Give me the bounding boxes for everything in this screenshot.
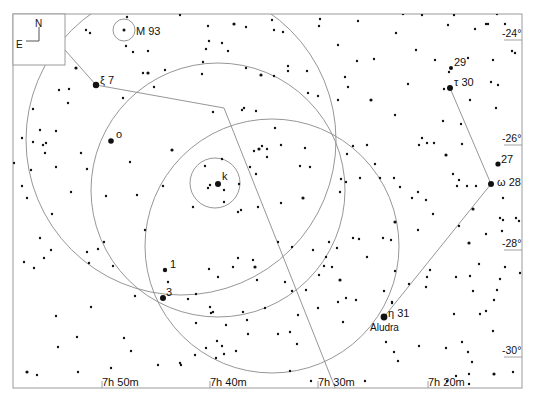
field-star [257,147,260,150]
labeled-star [163,268,167,272]
field-star [425,286,427,288]
field-star [42,144,44,146]
field-star [30,169,32,171]
field-star [194,354,196,356]
field-star [264,307,266,309]
field-star [336,247,338,249]
field-star [345,297,347,299]
field-star [399,186,401,188]
field-star [455,276,457,278]
field-star [445,347,447,349]
field-star [289,331,291,333]
field-star [305,289,307,291]
field-star [147,50,149,52]
field-star [407,83,409,85]
field-star [85,29,87,31]
field-star [256,279,258,281]
field-star [317,95,319,97]
field-star [162,185,164,187]
field-star [432,213,434,215]
field-star [309,166,311,168]
dec-tick-label: -26° [502,132,521,144]
dec-tick-label: -28° [502,237,521,249]
field-star [209,184,211,186]
field-star [518,220,520,222]
labeled-star [449,66,453,70]
field-star [208,268,210,270]
star-label: ω 28 [497,176,521,188]
field-star [221,42,223,44]
field-star [447,24,449,26]
field-star [112,265,114,267]
field-star [499,217,501,219]
field-star [444,153,447,156]
field-star [394,114,396,116]
field-star [105,195,107,197]
field-star [237,257,239,259]
field-star [179,362,181,364]
dec-tick-label: -24° [502,27,521,39]
field-star [458,225,460,227]
field-star [207,25,209,27]
field-star [237,211,239,213]
field-star [246,319,248,321]
field-star [90,306,92,308]
field-star [385,341,387,343]
field-star [273,29,275,31]
field-star [310,380,312,382]
field-star [26,197,28,199]
field-star [74,66,77,69]
field-star [492,330,494,332]
field-star [342,321,344,323]
field-star [345,181,347,183]
field-star [492,59,494,61]
field-star [502,197,504,199]
star-label: 3 [166,286,172,298]
star-label: τ 30 [454,76,474,88]
field-star [394,270,396,272]
field-star [209,306,211,308]
field-star [195,322,197,324]
field-star [519,272,521,274]
field-star [86,168,88,170]
field-star [495,107,497,109]
field-star [493,299,495,301]
field-star [366,144,368,146]
north-label: N [35,18,42,29]
field-star [192,206,194,208]
field-star [146,71,149,74]
field-star [337,301,339,303]
field-star [306,70,308,72]
field-star [58,89,60,91]
field-star [205,48,207,50]
field-star [357,20,359,22]
field-star [70,191,72,193]
field-star [45,142,47,144]
field-star [142,72,144,74]
field-star [212,111,214,113]
field-star [225,324,227,326]
field-star [67,102,69,104]
field-star [21,185,23,187]
field-star [51,213,53,215]
field-star [125,45,127,47]
field-star [235,350,237,352]
field-star [21,137,23,139]
field-star [170,148,173,151]
field-star [497,84,499,86]
field-star [408,283,410,285]
field-star [382,237,384,239]
field-star [205,347,207,349]
field-star [443,88,445,90]
field-star [338,278,341,281]
field-star [379,177,381,179]
star-label: 29 [454,56,466,68]
field-star [243,107,245,109]
field-star [501,230,503,232]
field-star [32,141,34,143]
labeled-star [488,181,494,187]
field-star [284,281,286,283]
field-star [255,110,257,112]
field-star [358,238,360,240]
field-star [201,73,203,75]
